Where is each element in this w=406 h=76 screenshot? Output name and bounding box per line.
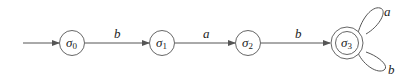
transition-label: b — [114, 26, 121, 41]
transition-label: b — [295, 26, 302, 41]
transition-label: b — [388, 62, 395, 76]
transition-s1-s2: a — [175, 26, 235, 43]
transition-s2-s3: b — [261, 26, 330, 43]
transition-label: a — [203, 26, 210, 41]
automaton-diagram: b a b a b σ0 σ1 σ2 σ3 — [0, 0, 406, 76]
state-subscript: 0 — [72, 41, 77, 51]
state-s3-accepting: σ3 — [331, 27, 363, 59]
self-loop-a: a — [358, 4, 391, 34]
state-subscript: 1 — [162, 41, 167, 51]
state-s0: σ0 — [60, 31, 85, 56]
transition-s0-s1: b — [85, 26, 149, 43]
state-s1: σ1 — [150, 31, 175, 56]
state-subscript: 2 — [248, 41, 253, 51]
state-subscript: 3 — [347, 41, 352, 51]
transition-label: a — [384, 4, 391, 19]
state-s2: σ2 — [236, 31, 261, 56]
self-loop-b: b — [358, 52, 395, 76]
